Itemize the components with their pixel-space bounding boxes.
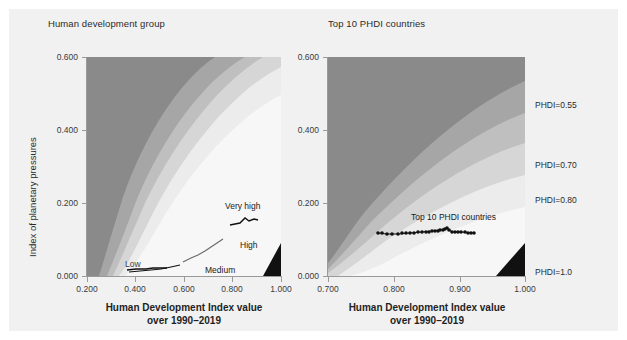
contour-label-phdi-0.70: PHDI=0.70 [535, 160, 577, 170]
series-label-top-10-phdi-countries: Top 10 PHDI countries [411, 212, 496, 222]
contour-bands-right [328, 57, 525, 276]
x-axis-title-left: Human Development Index value over 1990–… [74, 301, 294, 327]
x-axis-title-line2-left: over 1990–2019 [74, 314, 294, 327]
ytick-label-0.400-left: 0.400 [38, 125, 78, 135]
xtick-1.000-right [525, 277, 526, 282]
contour-label-phdi-0.80: PHDI=0.80 [535, 195, 577, 205]
panel-top-10-phdi-countries: Top 10 PHDI countries [309, 9, 618, 331]
x-axis-line-right [327, 276, 526, 277]
ytick-label-0.600-left: 0.600 [38, 52, 78, 62]
x-axis-title-line1-right: Human Development Index value [317, 301, 537, 314]
xtick-label-1.000-left: 1.000 [261, 284, 301, 294]
xtick-label-0.800-right: 0.800 [374, 284, 414, 294]
y-axis-line-right [327, 57, 328, 277]
ytick-label-0.200-right: 0.200 [279, 198, 319, 208]
xtick-0.600-left [184, 277, 185, 282]
ytick-label-0.600-right: 0.600 [279, 52, 319, 62]
figure-canvas: Human development group Index of planeta… [9, 9, 618, 331]
contour-label-phdi-1.0: PHDI=1.0 [535, 267, 572, 277]
xtick-label-0.200-left: 0.200 [67, 284, 107, 294]
ytick-label-0.400-right: 0.400 [279, 125, 319, 135]
series-label-very-high: Very high [225, 201, 260, 211]
contour-label-phdi-0.55: PHDI=0.55 [535, 100, 577, 110]
series-label-medium: Medium [205, 265, 235, 275]
panel-title-left: Human development group [48, 18, 165, 29]
y-axis-line-left [86, 57, 87, 277]
series-label-low: Low [125, 259, 141, 269]
plot-svg-right [328, 57, 525, 276]
xtick-label-0.600-left: 0.600 [164, 284, 204, 294]
ytick-label-0.200-left: 0.200 [38, 198, 78, 208]
xtick-0.800-right [394, 277, 395, 282]
xtick-label-0.800-left: 0.800 [212, 284, 252, 294]
x-axis-title-line1-left: Human Development Index value [74, 301, 294, 314]
figure-root: Human development group Index of planeta… [0, 0, 627, 340]
panel-human-development-group: Human development group Index of planeta… [9, 9, 309, 331]
x-axis-title-line2-right: over 1990–2019 [317, 314, 537, 327]
y-axis-title-left: Index of planetary pressures [27, 137, 38, 257]
xtick-0.200-left [87, 277, 88, 282]
xtick-label-0.900-right: 0.900 [440, 284, 480, 294]
plot-area-right [328, 57, 525, 276]
xtick-0.800-left [232, 277, 233, 282]
x-axis-title-right: Human Development Index value over 1990–… [317, 301, 537, 327]
ytick-label-0.000-right: 0.000 [279, 271, 319, 281]
xtick-0.900-right [460, 277, 461, 282]
xtick-label-1.000-right: 1.000 [505, 284, 545, 294]
xtick-label-0.700-right: 0.700 [308, 284, 348, 294]
ytick-label-0.000-left: 0.000 [38, 271, 78, 281]
series-label-high: High [240, 240, 257, 250]
xtick-0.400-left [135, 277, 136, 282]
xtick-label-0.400-left: 0.400 [115, 284, 155, 294]
xtick-0.700-right [328, 277, 329, 282]
panel-title-right: Top 10 PHDI countries [328, 18, 425, 29]
